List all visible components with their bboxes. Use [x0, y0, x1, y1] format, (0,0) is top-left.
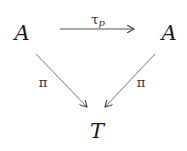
- commutative-diagram: A A T τp π π: [0, 0, 187, 151]
- top-arrow-label: τp: [91, 13, 105, 28]
- node-bottom-T: T: [90, 121, 104, 142]
- tau-subscript: p: [98, 17, 104, 28]
- left-arrow-label-pi: π: [39, 76, 48, 89]
- right-diagonal-arrow: [105, 54, 155, 107]
- node-top-right-A: A: [161, 23, 176, 44]
- node-top-left-A: A: [14, 23, 29, 44]
- right-arrow-label-pi: π: [137, 76, 146, 89]
